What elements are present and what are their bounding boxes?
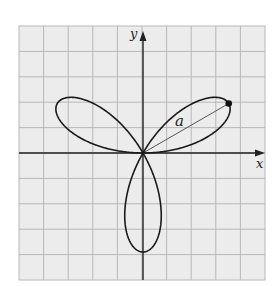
rose-curve-figure: x y a — [0, 0, 277, 286]
x-axis-label: x — [256, 156, 264, 171]
petal-tip-point — [225, 100, 232, 107]
y-axis-label: y — [129, 26, 138, 41]
